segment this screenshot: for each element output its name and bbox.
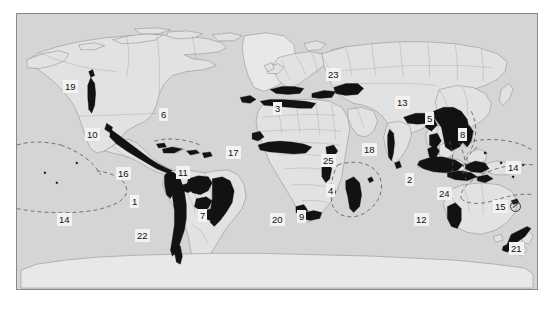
hotspot-label-22[interactable]: 22	[135, 229, 150, 242]
world-hotspots-figure: .land{fill:#e2e2e2;stroke:#7d7d7d;stroke…	[0, 0, 554, 316]
hotspot-label-16[interactable]: 16	[116, 167, 131, 180]
hotspot-label-10[interactable]: 10	[85, 128, 100, 141]
hotspot-label-17[interactable]: 17	[226, 146, 241, 159]
world-map-graphic: .land{fill:#e2e2e2;stroke:#7d7d7d;stroke…	[17, 14, 537, 289]
map-frame: .land{fill:#e2e2e2;stroke:#7d7d7d;stroke…	[16, 13, 538, 290]
hotspot-label-20[interactable]: 20	[270, 213, 285, 226]
hotspot-label-6[interactable]: 6	[159, 108, 168, 121]
hotspot-label-12[interactable]: 12	[414, 213, 429, 226]
hotspot-label-13[interactable]: 13	[395, 96, 410, 109]
hotspot-label-4[interactable]: 4	[326, 184, 335, 197]
hotspot-label-7[interactable]: 7	[198, 209, 207, 222]
hotspot-label-21[interactable]: 21	[509, 242, 524, 255]
circled-slash-marker-icon	[510, 201, 521, 212]
hotspot-label-5[interactable]: 5	[425, 112, 434, 125]
hotspot-label-15[interactable]: 15	[493, 200, 508, 213]
hotspot-label-19[interactable]: 19	[63, 80, 78, 93]
hotspot-label-14-east[interactable]: 14	[506, 161, 521, 174]
hotspot-label-18[interactable]: 18	[362, 143, 377, 156]
hotspot-label-11[interactable]: 11	[176, 166, 190, 179]
hotspot-label-14-west[interactable]: 14	[57, 213, 72, 226]
hotspot-label-23[interactable]: 23	[326, 68, 341, 81]
hotspot-label-25[interactable]: 25	[321, 154, 336, 167]
hotspot-label-1[interactable]: 1	[130, 195, 139, 208]
hotspot-label-24[interactable]: 24	[437, 187, 452, 200]
hotspot-label-8[interactable]: 8	[458, 128, 467, 141]
hotspot-label-2[interactable]: 2	[405, 173, 414, 186]
hotspot-label-3[interactable]: 3	[273, 102, 282, 115]
hotspot-label-9[interactable]: 9	[297, 210, 306, 223]
